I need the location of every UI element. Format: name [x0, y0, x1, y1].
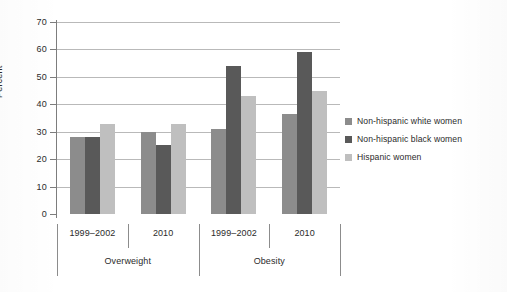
bar: [241, 96, 256, 214]
bar: [85, 137, 100, 214]
y-axis-tick: [50, 187, 56, 188]
y-axis-tick-label: 20: [0, 155, 47, 164]
legend-swatch-icon: [345, 136, 352, 143]
bar: [211, 129, 226, 214]
bar: [156, 145, 171, 214]
gridline: [57, 22, 340, 23]
y-axis-tick-label: 50: [0, 73, 47, 82]
group-separator: [57, 224, 58, 276]
bar: [141, 132, 156, 214]
group-label: Overweight: [78, 256, 178, 266]
y-axis-tick: [50, 214, 56, 215]
category-label: 2010: [123, 228, 203, 238]
legend-item: Non-hispanic white women: [345, 116, 462, 126]
chart-legend: Non-hispanic white womenNon-hispanic bla…: [345, 116, 462, 162]
group-separator: [199, 224, 200, 276]
group-separator: [340, 224, 341, 276]
plot-area: [57, 22, 340, 214]
bar-chart-figure: Percent 010203040506070 1999–20022010199…: [0, 0, 507, 292]
category-label: 1999–2002: [52, 228, 132, 238]
y-axis-tick: [50, 49, 56, 50]
legend-item: Non-hispanic black women: [345, 134, 462, 144]
y-axis-tick: [50, 132, 56, 133]
y-axis-tick: [50, 104, 56, 105]
y-axis-tick-label: 60: [0, 45, 47, 54]
group-label: Obesity: [219, 256, 319, 266]
category-label: 1999–2002: [194, 228, 274, 238]
y-axis-tick-label: 40: [0, 100, 47, 109]
category-label: 2010: [265, 228, 345, 238]
year-separator: [128, 224, 129, 248]
y-axis-tick: [50, 22, 56, 23]
legend-swatch-icon: [345, 154, 352, 161]
legend-swatch-icon: [345, 118, 352, 125]
gridline: [57, 49, 340, 50]
bar: [226, 66, 241, 214]
bar: [100, 124, 115, 215]
bar: [282, 114, 297, 214]
year-separator: [269, 224, 270, 248]
legend-label: Hispanic women: [357, 152, 421, 162]
y-axis-tick-label: 10: [0, 183, 47, 192]
bar: [312, 91, 327, 214]
bar: [70, 137, 85, 214]
y-axis-tick: [50, 159, 56, 160]
bar: [297, 52, 312, 214]
y-axis-tick-label: 30: [0, 128, 47, 137]
bar: [171, 124, 186, 215]
legend-item: Hispanic women: [345, 152, 462, 162]
y-axis-tick-label: 0: [0, 210, 47, 219]
y-axis-tick-label: 70: [0, 18, 47, 27]
legend-label: Non-hispanic black women: [357, 134, 462, 144]
y-axis-tick: [50, 77, 56, 78]
legend-label: Non-hispanic white women: [357, 116, 462, 126]
